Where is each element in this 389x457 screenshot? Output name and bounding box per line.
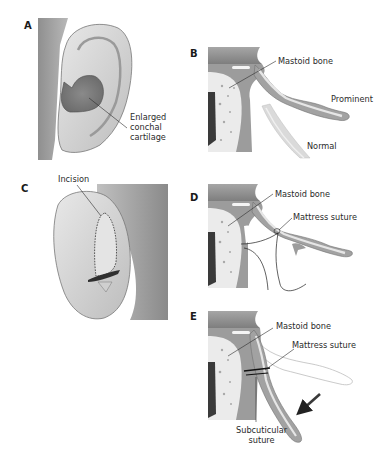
callout-mastoid-bone-d: Mastoid bone <box>275 189 330 199</box>
panel-a-ear-illustration <box>38 18 132 160</box>
illustration-canvas <box>0 0 389 457</box>
callout-line-3: cartilage <box>130 132 166 142</box>
panel-c-incision-illustration <box>54 184 168 320</box>
callout-mastoid-bone-e: Mastoid bone <box>276 321 331 331</box>
panel-label-c: C <box>21 183 28 194</box>
panel-label-a: A <box>24 20 32 31</box>
callout-line-2: conchal <box>130 122 166 132</box>
callout-line-2: suture <box>236 435 287 445</box>
callout-incision: Incision <box>58 174 89 184</box>
callout-mastoid-bone-b: Mastoid bone <box>278 56 333 66</box>
callout-prominent: Prominent <box>331 94 373 104</box>
callout-mattress-suture-d: Mattress suture <box>293 212 357 222</box>
otoplasty-figure: A B C D E Enlarged conchal cartilage Mas… <box>0 0 389 457</box>
callout-enlarged-conchal-cartilage: Enlarged conchal cartilage <box>130 112 166 142</box>
panel-d-mattress-suture <box>208 184 352 291</box>
panel-label-d: D <box>190 192 198 203</box>
callout-subcuticular-suture: Subcuticular suture <box>236 425 287 445</box>
callout-mattress-suture-e: Mattress suture <box>292 340 356 350</box>
callout-normal: Normal <box>307 141 337 151</box>
callout-line-1: Enlarged <box>130 112 166 122</box>
callout-line-1: Subcuticular <box>236 425 287 435</box>
panel-label-b: B <box>190 48 198 59</box>
panel-label-e: E <box>190 311 197 322</box>
